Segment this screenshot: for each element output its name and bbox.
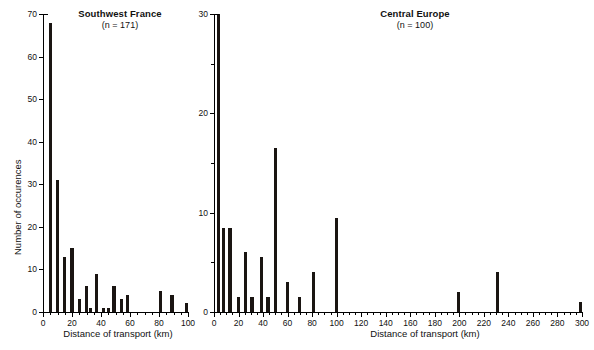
x-tick-minor <box>429 313 430 315</box>
x-tick-major <box>72 313 73 317</box>
x-tick-label: 40 <box>96 318 105 328</box>
bar <box>228 228 231 312</box>
panel-central-europe: Central Europe (n = 100) 020406080100120… <box>195 0 594 350</box>
x-tick-label: 100 <box>181 318 195 328</box>
x-tick-minor <box>576 313 577 315</box>
figure-caption-cutoff <box>8 338 588 350</box>
x-tick-minor <box>472 313 473 315</box>
x-tick-minor <box>392 313 393 315</box>
y-tick-major <box>210 213 215 214</box>
y-tick-major <box>39 269 44 270</box>
x-tick-minor <box>324 313 325 315</box>
y-tick-label: 40 <box>15 137 37 147</box>
x-tick-major <box>337 313 338 317</box>
x-tick-major <box>101 313 102 317</box>
x-tick-minor <box>343 313 344 315</box>
panel-southwest-france: Southwest France (n = 171) 0204060801000… <box>0 0 200 350</box>
x-tick-minor <box>87 313 88 315</box>
bar <box>159 291 162 312</box>
y-tick-major <box>39 57 44 58</box>
x-tick-label: 20 <box>67 318 76 328</box>
y-tick-minor <box>211 262 215 263</box>
x-tick-minor <box>58 313 59 315</box>
x-tick-label: 280 <box>550 318 564 328</box>
bar <box>170 295 173 312</box>
x-tick-minor <box>367 313 368 315</box>
x-tick-major <box>130 313 131 317</box>
bar <box>126 295 129 312</box>
plot-area-southwest-france: 020406080100010203040506070 <box>43 14 188 312</box>
x-tick-minor <box>453 313 454 315</box>
x-tick-minor <box>447 313 448 315</box>
x-tick-major <box>214 313 215 317</box>
y-tick-label: 10 <box>15 264 37 274</box>
x-tick-label: 200 <box>452 318 466 328</box>
x-tick-minor <box>331 313 332 315</box>
bar <box>112 286 115 312</box>
x-tick-major <box>312 313 313 317</box>
x-tick-minor <box>174 313 175 315</box>
x-tick-label: 120 <box>354 318 368 328</box>
x-tick-minor <box>50 313 51 315</box>
x-tick-minor <box>65 313 66 315</box>
bar <box>107 308 110 312</box>
bar <box>274 148 277 312</box>
x-tick-minor <box>527 313 528 315</box>
x-tick-major <box>459 313 460 317</box>
bar <box>102 308 105 312</box>
x-tick-label: 100 <box>330 318 344 328</box>
y-tick-label: 50 <box>15 94 37 104</box>
x-tick-minor <box>545 313 546 315</box>
bar <box>49 23 52 312</box>
x-tick-major <box>484 313 485 317</box>
x-tick-minor <box>465 313 466 315</box>
x-tick-minor <box>123 313 124 315</box>
x-tick-minor <box>496 313 497 315</box>
x-tick-minor <box>166 313 167 315</box>
y-tick-label: 20 <box>186 108 208 118</box>
y-tick-major <box>210 312 215 313</box>
y-tick-major <box>210 113 215 114</box>
x-tick-major <box>239 313 240 317</box>
x-tick-minor <box>551 313 552 315</box>
x-tick-minor <box>245 313 246 315</box>
x-tick-minor <box>515 313 516 315</box>
y-axis-top-cap <box>214 14 219 15</box>
x-tick-minor <box>318 313 319 315</box>
x-tick-label: 0 <box>212 318 217 328</box>
y-tick-major <box>39 312 44 313</box>
x-tick-minor <box>539 313 540 315</box>
bar <box>250 297 253 312</box>
x-tick-label: 300 <box>575 318 589 328</box>
x-tick-label: 240 <box>501 318 515 328</box>
bar <box>63 257 66 312</box>
x-tick-label: 60 <box>125 318 134 328</box>
x-tick-major <box>159 313 160 317</box>
x-tick-major <box>533 313 534 317</box>
y-tick-label: 30 <box>186 9 208 19</box>
bar <box>496 272 499 312</box>
bar <box>260 257 263 312</box>
y-tick-major <box>39 99 44 100</box>
figure-histogram-transport-distance: Southwest France (n = 171) 0204060801000… <box>0 0 594 350</box>
y-tick-minor <box>211 163 215 164</box>
x-tick-minor <box>441 313 442 315</box>
y-tick-major <box>39 227 44 228</box>
x-tick-label: 220 <box>477 318 491 328</box>
x-tick-label: 80 <box>154 318 163 328</box>
bar <box>457 292 460 312</box>
x-tick-minor <box>570 313 571 315</box>
y-tick-major <box>39 184 44 185</box>
x-tick-minor <box>116 313 117 315</box>
bar <box>579 302 582 312</box>
y-axis-line <box>43 14 44 313</box>
bar <box>335 218 338 312</box>
bar <box>85 286 88 312</box>
x-tick-minor <box>373 313 374 315</box>
x-tick-minor <box>232 313 233 315</box>
x-tick-minor <box>220 313 221 315</box>
x-tick-label: 40 <box>258 318 267 328</box>
x-tick-minor <box>269 313 270 315</box>
x-tick-minor <box>380 313 381 315</box>
x-tick-minor <box>108 313 109 315</box>
